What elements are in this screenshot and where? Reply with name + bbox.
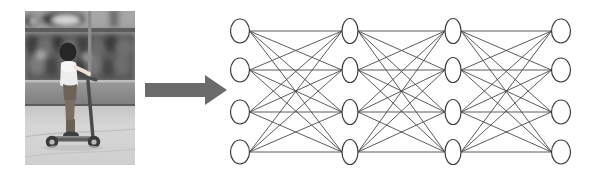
network-node-hidden-layer-1-1: [342, 19, 358, 44]
network-node-hidden-layer-2-4: [445, 140, 461, 165]
network-node-output-layer-1: [552, 19, 571, 43]
figure-canvas: [0, 0, 590, 179]
network-node-hidden-layer-2-3: [445, 100, 461, 125]
network-node-hidden-layer-1-4: [342, 140, 358, 165]
fully-connected-neural-network: [225, 0, 590, 179]
photo-pavement: [25, 106, 135, 165]
arrow-right-icon: [145, 75, 227, 105]
photo-crowd: [25, 34, 135, 82]
network-node-hidden-layer-1-2: [342, 58, 358, 83]
photo-image: [25, 11, 135, 165]
network-node-input-layer-2: [231, 58, 250, 82]
network-node-input-layer-3: [231, 100, 250, 124]
network-node-input-layer-1: [231, 19, 250, 43]
photo-wall: [25, 81, 135, 106]
network-node-output-layer-3: [552, 100, 571, 124]
network-node-output-layer-4: [552, 140, 571, 164]
network-node-hidden-layer-2-2: [445, 58, 461, 83]
transformation-arrow: [143, 72, 229, 108]
network-node-hidden-layer-1-3: [342, 100, 358, 125]
child-on-kick-scooter-photo: [25, 11, 135, 165]
network-node-input-layer-4: [231, 140, 250, 164]
network-node-hidden-layer-2-1: [445, 19, 461, 44]
network-node-output-layer-2: [552, 58, 571, 82]
network-edges: [250, 31, 552, 152]
